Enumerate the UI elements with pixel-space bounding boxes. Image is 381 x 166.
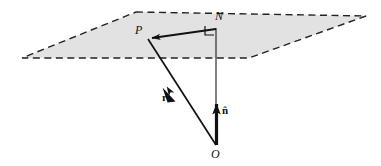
plane-surface [22,12,366,58]
label-point-o: O [211,148,220,160]
label-vector-r: r [162,92,167,103]
label-point-p: P [135,24,142,36]
label-vector-n-hat: n̂ [222,105,228,116]
diagram-canvas [0,0,381,166]
vector-plane-diagram: P N O r n̂ [0,0,381,166]
label-point-n: N [215,10,223,22]
